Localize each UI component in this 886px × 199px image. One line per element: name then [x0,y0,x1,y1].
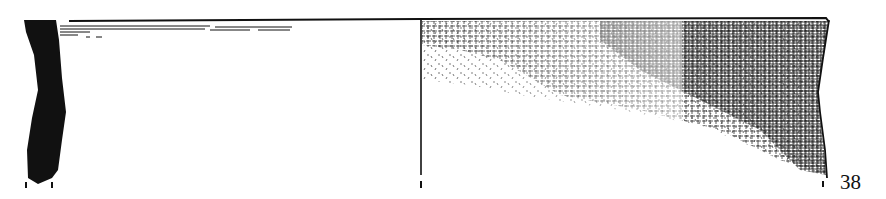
exterior-surface [422,21,829,181]
tick-left-1 [25,182,27,188]
wall-section [24,20,66,184]
pottery-drawing [0,0,886,199]
tick-right [822,181,824,187]
tick-center [420,181,422,188]
tick-left-2 [51,182,53,188]
figure-number: 38 [840,172,861,193]
interior-rim-strokes [60,26,292,37]
